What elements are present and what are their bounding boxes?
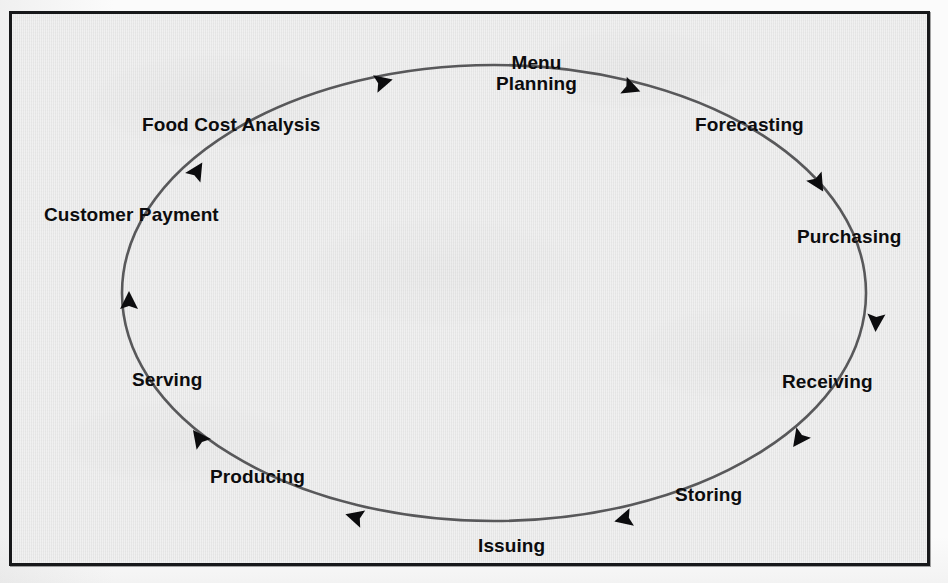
- stage-label-food-cost-analysis: Food Cost Analysis: [142, 114, 320, 135]
- stage-label-serving: Serving: [132, 369, 202, 390]
- arrowhead-4: [866, 314, 885, 333]
- figure-frame: Menu PlanningForecastingPurchasingReceiv…: [9, 11, 930, 566]
- stage-label-storing: Storing: [675, 484, 742, 505]
- arrowhead-7: [343, 506, 365, 528]
- stage-label-receiving: Receiving: [782, 371, 873, 392]
- stage-label-forecasting: Forecasting: [695, 114, 804, 135]
- stage-label-producing: Producing: [210, 466, 305, 487]
- figure-root: Menu PlanningForecastingPurchasingReceiv…: [0, 0, 948, 583]
- stage-label-menu-planning: Menu Planning: [496, 52, 577, 94]
- stage-label-issuing: Issuing: [478, 535, 545, 556]
- arrowhead-6: [612, 508, 634, 530]
- stage-label-purchasing: Purchasing: [797, 226, 901, 247]
- arrowhead-8: [186, 425, 211, 450]
- cycle-diagram-svg: [12, 14, 933, 569]
- stage-label-customer-payment: Customer Payment: [44, 204, 219, 225]
